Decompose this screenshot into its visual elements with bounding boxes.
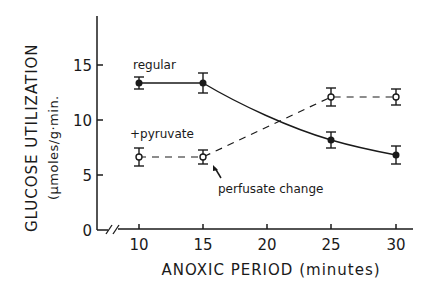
open-circle-icon <box>136 154 142 160</box>
chart: GLUCOSE UTILIZATION (µmoles/g·min. 15 10… <box>0 0 434 297</box>
x-tick-25: 25 <box>321 236 340 254</box>
y-ticks <box>97 65 103 175</box>
filled-circle-icon <box>200 80 207 87</box>
y-axis-title: GLUCOSE UTILIZATION <box>23 43 41 232</box>
label-perfusate-change: perfusate change <box>218 182 323 196</box>
x-axis-title: ANOXIC PERIOD (minutes) <box>161 261 380 279</box>
y-tick-10: 10 <box>73 112 92 130</box>
open-circle-icon <box>200 154 206 160</box>
y-tick-15: 15 <box>73 57 92 75</box>
x-tick-10: 10 <box>129 236 148 254</box>
x-tick-30: 30 <box>386 236 405 254</box>
series-regular-markers <box>136 80 400 159</box>
open-circle-icon <box>393 94 399 100</box>
series-regular-errorbars <box>134 73 401 164</box>
x-tick-20: 20 <box>257 236 276 254</box>
label-pyruvate: +pyruvate <box>130 127 194 141</box>
x-tick-15: 15 <box>193 236 212 254</box>
series-regular-line <box>139 83 396 155</box>
filled-circle-icon <box>393 152 400 159</box>
label-regular: regular <box>133 58 176 72</box>
open-circle-icon <box>328 94 334 100</box>
y-axis-units: (µmoles/g·min. <box>46 95 61 200</box>
y-tick-5: 5 <box>82 167 92 185</box>
filled-circle-icon <box>136 80 143 87</box>
filled-circle-icon <box>328 137 335 144</box>
arrowhead-icon <box>213 165 218 171</box>
y-tick-0: 0 <box>82 222 92 240</box>
